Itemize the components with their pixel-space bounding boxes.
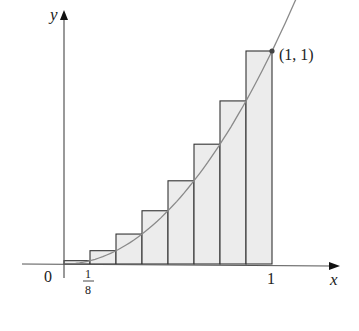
y-axis-arrow-icon (60, 10, 68, 20)
point-label: (1, 1) (279, 46, 314, 64)
riemann-rectangle (194, 144, 220, 264)
tick-label-fraction-denominator: 8 (85, 283, 91, 297)
tick-label-one: 1 (267, 270, 275, 287)
riemann-rectangle (168, 181, 194, 264)
riemann-rectangle (246, 51, 272, 264)
origin-label: 0 (44, 268, 52, 285)
point-marker-icon (269, 48, 274, 53)
riemann-sum-plot: y x 0 1 1 8 (1, 1) (0, 0, 359, 331)
riemann-rectangle (220, 101, 246, 264)
y-axis-label: y (48, 5, 58, 24)
rectangles-group (64, 51, 272, 264)
tick-label-fraction-numerator: 1 (85, 267, 91, 281)
riemann-rectangle (142, 211, 168, 264)
x-axis-label: x (329, 270, 338, 289)
x-axis-arrow-icon (329, 262, 340, 270)
